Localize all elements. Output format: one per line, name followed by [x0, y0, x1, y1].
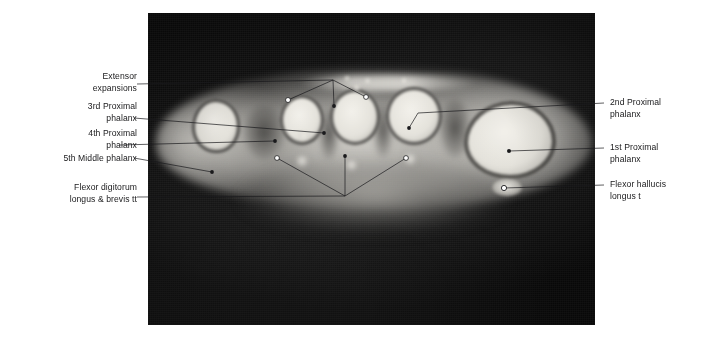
leader-extensor-expansions: [137, 80, 366, 106]
label-line: 5th Middle phalanx: [0, 153, 137, 165]
label-extensor-expansions: Extensor expansions: [0, 71, 137, 94]
label-flexor-digitorum-longus-brevis-tt: Flexor digitorum longus & brevis tt: [0, 182, 137, 205]
label-5th-middle-phalanx: 5th Middle phalanx: [0, 153, 137, 165]
leader-flexor-hallucis-longus: [504, 185, 604, 188]
annotated-mri-figure: Extensor expansions 3rd Proximal phalanx…: [0, 0, 712, 340]
label-line: 1st Proximal: [610, 142, 712, 154]
label-line: phalanx: [610, 154, 712, 166]
label-line: phalanx: [610, 109, 712, 121]
leader-endpoint-markers: [210, 95, 511, 191]
label-line: expansions: [0, 83, 137, 95]
leader-4th-proximal-phalanx: [120, 141, 275, 145]
leader-3rd-proximal-phalanx: [134, 118, 324, 133]
label-line: 3rd Proximal: [0, 101, 137, 113]
label-3rd-proximal-phalanx: 3rd Proximal phalanx: [0, 101, 137, 124]
label-line: Flexor hallucis: [610, 179, 712, 191]
leader-1st-proximal-phalanx: [509, 148, 604, 151]
label-line: phalanx: [0, 113, 137, 125]
leader-5th-middle-phalanx: [134, 158, 212, 172]
label-line: phalanx: [0, 140, 137, 152]
label-2nd-proximal-phalanx: 2nd Proximal phalanx: [610, 97, 712, 120]
leader-flexor-digitorum-longus-brevis: [137, 156, 406, 197]
label-line: Flexor digitorum: [0, 182, 137, 194]
leader-2nd-proximal-phalanx: [409, 103, 604, 128]
label-4th-proximal-phalanx: 4th Proximal phalanx: [0, 128, 137, 151]
label-line: Extensor: [0, 71, 137, 83]
label-line: longus t: [610, 191, 712, 203]
label-1st-proximal-phalanx: 1st Proximal phalanx: [610, 142, 712, 165]
label-flexor-hallucis-longus-t: Flexor hallucis longus t: [610, 179, 712, 202]
label-line: 2nd Proximal: [610, 97, 712, 109]
label-line: 4th Proximal: [0, 128, 137, 140]
label-line: longus & brevis tt: [0, 194, 137, 206]
annotation-overlay: [0, 0, 712, 340]
